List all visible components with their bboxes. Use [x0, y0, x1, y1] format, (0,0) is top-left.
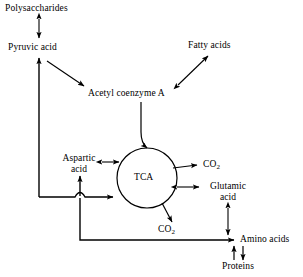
edge-tca-co2-lower	[162, 203, 172, 222]
edge-bottom-to-amino	[80, 198, 234, 240]
glutamic-acid-line2: acid	[220, 192, 236, 202]
node-fatty-acids: Fatty acids	[188, 40, 231, 51]
co2-lower-subscript: 2	[171, 228, 175, 236]
node-proteins: Proteins	[222, 261, 254, 272]
co2-lower-text: CO	[158, 224, 171, 234]
node-aspartic-acid: Aspartic acid	[57, 153, 101, 175]
co2-upper-subscript: 2	[216, 163, 220, 171]
node-pyruvic-acid: Pyruvic acid	[8, 42, 57, 53]
metabolism-diagram: Polysaccharides Pyruvic acid Fatty acids…	[0, 0, 303, 277]
glutamic-acid-line1: Glutamic	[210, 181, 246, 191]
co2-upper-text: CO	[203, 159, 216, 169]
node-acetyl-coenzyme-a: Acetyl coenzyme A	[88, 88, 165, 99]
node-tca: TCA	[134, 172, 153, 183]
node-co2-upper: CO2	[203, 159, 220, 173]
edge-pyruvic-acetyl	[47, 61, 84, 86]
edge-feed-into-tca	[39, 193, 113, 198]
node-co2-lower: CO2	[158, 224, 175, 238]
edge-acetyl-fatty	[178, 56, 208, 85]
node-glutamic-acid: Glutamic acid	[203, 181, 253, 203]
node-amino-acids: Amino acids	[240, 234, 289, 245]
aspartic-acid-line2: acid	[71, 164, 87, 174]
aspartic-acid-line1: Aspartic	[63, 153, 96, 163]
edge-acetyl-tca	[141, 102, 147, 148]
node-polysaccharides: Polysaccharides	[5, 3, 68, 14]
edge-tca-co2-upper	[173, 165, 197, 168]
